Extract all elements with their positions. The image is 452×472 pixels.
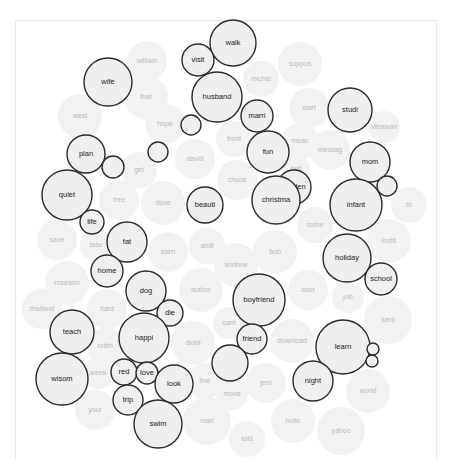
word-bubble-swim[interactable]: swim bbox=[134, 400, 182, 448]
background-bubble-label: bob bbox=[269, 248, 281, 255]
word-bubble-plan[interactable]: plan bbox=[67, 135, 105, 173]
background-bubble-label: thailand bbox=[30, 305, 55, 312]
word-bubble-life[interactable]: life bbox=[80, 210, 104, 234]
background-bubble-dove: dove bbox=[141, 181, 185, 225]
word-bubble-infant[interactable]: infant bbox=[330, 179, 382, 231]
word-bubble-christma[interactable]: christma bbox=[252, 176, 300, 224]
background-bubble-label: marl bbox=[200, 417, 214, 424]
background-bubble-label: suppos bbox=[289, 60, 312, 68]
word-bubble-unlabeled-4[interactable] bbox=[181, 115, 201, 135]
word-bubble-circle[interactable] bbox=[148, 142, 168, 162]
word-bubble-circle[interactable] bbox=[80, 210, 104, 234]
word-bubble-wife[interactable]: wife bbox=[84, 58, 132, 106]
word-bubble-circle[interactable] bbox=[181, 115, 201, 135]
background-bubble-choos: choos bbox=[217, 160, 257, 200]
word-bubble-circle[interactable] bbox=[367, 343, 379, 355]
background-bubble-label: mean bbox=[291, 137, 309, 144]
word-bubble-unlabeled-32[interactable] bbox=[212, 345, 248, 381]
word-bubble-teach[interactable]: teach bbox=[50, 310, 94, 354]
background-bubble-start: start bbox=[289, 88, 329, 128]
background-bubble-label: save bbox=[50, 236, 65, 243]
background-bubble-label: sent bbox=[381, 316, 394, 323]
word-bubble-circle[interactable] bbox=[50, 310, 94, 354]
background-bubble-label: told bbox=[241, 435, 252, 442]
word-bubble-visit[interactable]: visit bbox=[182, 44, 214, 76]
word-bubble-school[interactable]: school bbox=[365, 263, 397, 295]
word-bubble-circle[interactable] bbox=[252, 176, 300, 224]
background-bubble-come: come bbox=[297, 207, 333, 243]
word-bubble-circle[interactable] bbox=[210, 20, 256, 66]
word-bubble-unlabeled-12[interactable] bbox=[377, 176, 397, 196]
word-bubble-circle[interactable] bbox=[91, 255, 123, 287]
background-bubble-hope: hope bbox=[145, 104, 185, 144]
word-bubble-walk[interactable]: walk bbox=[210, 20, 256, 66]
background-bubble-didnt: didnt bbox=[171, 321, 215, 365]
background-bubble-suppos: suppos bbox=[278, 42, 322, 86]
word-bubble-circle[interactable] bbox=[241, 100, 273, 132]
word-bubble-circle[interactable] bbox=[330, 179, 382, 231]
background-bubble-label: world bbox=[359, 387, 377, 394]
word-bubble-unlabeled-31[interactable] bbox=[366, 355, 378, 367]
background-bubble-label: vitrawan bbox=[371, 123, 397, 130]
background-bubble-label: start bbox=[302, 104, 316, 111]
background-bubble-label: william bbox=[136, 57, 158, 64]
background-bubble-michel: michel bbox=[243, 61, 279, 97]
background-bubble-barri: barri bbox=[148, 232, 188, 272]
background-bubble-label: andrew bbox=[225, 261, 249, 268]
background-bubble-label: download bbox=[277, 337, 307, 344]
background-bubble-vitrawan: vitrawan bbox=[368, 111, 400, 143]
word-bubble-wisom[interactable]: wisom bbox=[36, 353, 88, 405]
word-bubble-happi[interactable]: happi bbox=[119, 313, 169, 363]
word-bubble-circle[interactable] bbox=[102, 156, 124, 178]
word-bubble-circle[interactable] bbox=[233, 274, 285, 326]
bubble-cloud-chart: williamthatwesthopemichelsupposstartvitr… bbox=[0, 0, 452, 472]
word-bubble-circle[interactable] bbox=[182, 44, 214, 76]
word-bubble-beauti[interactable]: beauti bbox=[187, 187, 223, 223]
word-bubble-circle[interactable] bbox=[328, 88, 372, 132]
word-bubble-marri[interactable]: marri bbox=[241, 100, 273, 132]
word-bubble-look[interactable]: look bbox=[155, 365, 193, 403]
word-bubble-boyfriend[interactable]: boyfriend bbox=[233, 274, 285, 326]
word-bubble-circle[interactable] bbox=[365, 263, 397, 295]
word-bubble-circle[interactable] bbox=[84, 58, 132, 106]
background-bubble-yahoo: yahoo bbox=[317, 407, 365, 455]
word-bubble-circle[interactable] bbox=[192, 72, 242, 122]
background-bubble-label: front bbox=[227, 135, 241, 142]
background-bubble-label: michel bbox=[251, 75, 272, 82]
background-bubble-hard: hard bbox=[87, 289, 127, 329]
word-bubble-holiday[interactable]: holiday bbox=[323, 234, 371, 282]
background-bubble-label: instit bbox=[382, 237, 396, 244]
word-bubble-home[interactable]: home bbox=[91, 255, 123, 287]
word-bubble-studi[interactable]: studi bbox=[328, 88, 372, 132]
word-bubble-circle[interactable] bbox=[377, 176, 397, 196]
word-bubble-circle[interactable] bbox=[247, 131, 289, 173]
background-bubble-bob: bob bbox=[253, 230, 297, 274]
background-bubble-save: save bbox=[37, 220, 77, 260]
background-bubble-label: free bbox=[113, 196, 125, 203]
word-bubble-circle[interactable] bbox=[187, 187, 223, 223]
word-bubble-circle[interactable] bbox=[155, 365, 193, 403]
background-bubble-label: messag bbox=[318, 146, 343, 154]
word-bubble-night[interactable]: night bbox=[293, 361, 333, 401]
word-bubble-circle[interactable] bbox=[119, 313, 169, 363]
word-bubble-unlabeled-8[interactable] bbox=[102, 156, 124, 178]
word-bubble-circle[interactable] bbox=[366, 355, 378, 367]
background-bubble-label: cant bbox=[222, 319, 235, 326]
word-bubble-circle[interactable] bbox=[36, 353, 88, 405]
word-bubble-circle[interactable] bbox=[323, 234, 371, 282]
background-bubble-label: jerri bbox=[259, 379, 272, 387]
background-bubble-label: door bbox=[301, 286, 316, 293]
word-bubble-circle[interactable] bbox=[67, 135, 105, 173]
word-bubble-circle[interactable] bbox=[134, 400, 182, 448]
word-bubble-circle[interactable] bbox=[111, 359, 137, 385]
background-bubble-label: david bbox=[187, 155, 204, 162]
word-bubble-circle[interactable] bbox=[293, 361, 333, 401]
background-bubble-download: download bbox=[270, 319, 314, 363]
word-bubble-husband[interactable]: husband bbox=[192, 72, 242, 122]
background-bubble-label: yahoo bbox=[331, 427, 350, 435]
word-bubble-circle[interactable] bbox=[212, 345, 248, 381]
word-bubble-fun[interactable]: fun bbox=[247, 131, 289, 173]
word-bubble-unlabeled-9[interactable] bbox=[148, 142, 168, 162]
word-bubble-unlabeled-30[interactable] bbox=[367, 343, 379, 355]
word-bubble-red[interactable]: red bbox=[111, 359, 137, 385]
